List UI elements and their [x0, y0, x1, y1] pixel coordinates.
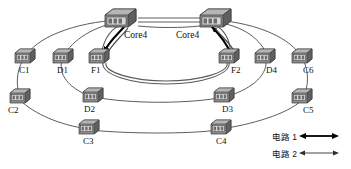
network-topology-diagram: Core4 Core4 C1 — [0, 0, 351, 169]
legend-item-circuit-1: 电路 1 — [272, 128, 339, 143]
legend-arrow-circuit-1 — [299, 130, 339, 142]
node-icon-core-right[interactable] — [198, 7, 232, 29]
node-label-f2: F2 — [231, 65, 241, 75]
node-label-c5: C5 — [303, 105, 314, 115]
node-icon-d4[interactable] — [254, 48, 276, 64]
core-to-core-trunk — [138, 18, 200, 28]
node-icon-f1[interactable] — [88, 48, 110, 64]
node-label-c4: C4 — [216, 136, 227, 146]
core-right-label: Core4 — [176, 30, 199, 40]
node-icon-c1[interactable] — [14, 48, 36, 64]
legend: 电路 1 电路 2 — [272, 128, 348, 164]
outer-ring — [17, 20, 307, 133]
node-label-d4: D4 — [266, 65, 277, 75]
node-label-c2: C2 — [8, 105, 19, 115]
node-icon-c6[interactable] — [291, 48, 313, 64]
node-label-d1: D1 — [57, 65, 68, 75]
node-label-c6: C6 — [303, 65, 314, 75]
node-label-d2: D2 — [84, 104, 95, 114]
core-left-label: Core4 — [124, 30, 147, 40]
node-icon-c5[interactable] — [291, 88, 313, 104]
node-icon-c3[interactable] — [78, 119, 100, 135]
node-icon-f2[interactable] — [218, 48, 240, 64]
legend-label-circuit-1: 电路 1 — [272, 130, 297, 142]
node-icon-d3[interactable] — [213, 87, 235, 103]
legend-item-circuit-2: 电路 2 — [272, 145, 339, 160]
legend-arrow-circuit-2 — [299, 147, 339, 159]
node-label-d3: D3 — [222, 104, 233, 114]
node-label-c1: C1 — [19, 65, 30, 75]
node-icon-c2[interactable] — [9, 88, 31, 104]
node-icon-d1[interactable] — [52, 48, 74, 64]
node-icon-c4[interactable] — [210, 119, 232, 135]
node-label-c3: C3 — [83, 136, 94, 146]
legend-label-circuit-2: 电路 2 — [272, 147, 297, 159]
node-icon-d2[interactable] — [82, 87, 104, 103]
node-icon-core-left[interactable] — [103, 7, 137, 29]
node-label-f1: F1 — [91, 65, 101, 75]
inner-ring — [101, 24, 231, 84]
